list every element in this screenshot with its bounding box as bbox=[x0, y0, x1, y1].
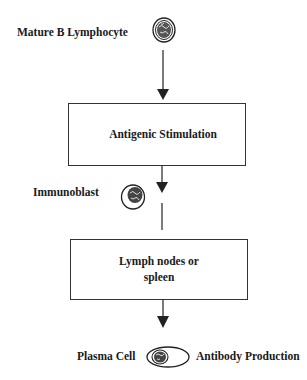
lymph-nodes-label: Lymph nodes or spleen bbox=[119, 254, 199, 285]
arrow-down-icon bbox=[156, 166, 168, 193]
antibody-production-label: Antibody Production bbox=[196, 351, 300, 363]
antigenic-stimulation-label: Antigenic Stimulation bbox=[109, 127, 217, 143]
antigenic-stimulation-box: Antigenic Stimulation bbox=[68, 103, 246, 166]
lymph-nodes-box: Lymph nodes or spleen bbox=[70, 239, 248, 300]
immunoblast-cell-icon bbox=[122, 185, 145, 209]
plasma-cell-label: Plasma Cell bbox=[77, 351, 135, 363]
arrow-down-icon bbox=[157, 50, 169, 100]
lymphocyte-cell-icon bbox=[153, 18, 175, 42]
mature-b-lymphocyte-label: Mature B Lymphocyte bbox=[17, 27, 128, 39]
lymph-nodes-label-line2: spleen bbox=[119, 270, 199, 286]
plasma-cell-icon bbox=[147, 347, 189, 367]
lymph-nodes-label-line1: Lymph nodes or bbox=[119, 254, 199, 270]
immunoblast-label: Immunoblast bbox=[33, 187, 99, 199]
arrow-down-icon bbox=[157, 300, 169, 328]
